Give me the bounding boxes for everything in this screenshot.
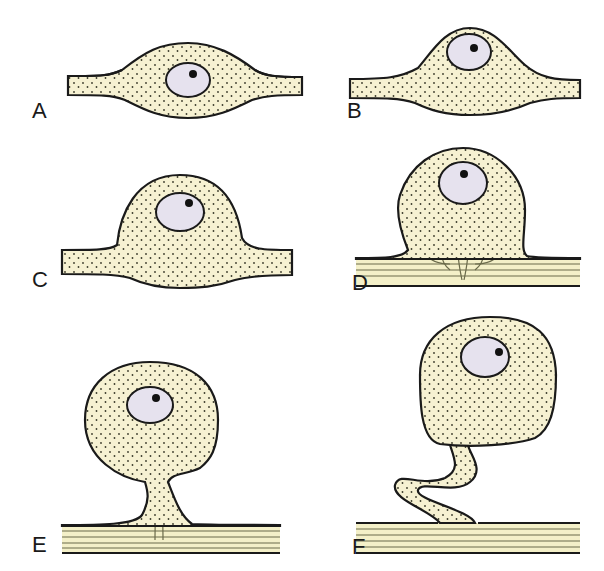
nucleus	[461, 337, 509, 377]
panel-d: D	[352, 148, 580, 295]
neuron-development-diagram: A B C	[0, 0, 604, 571]
panel-f: F	[352, 317, 580, 559]
nucleus	[156, 193, 204, 231]
nucleolus	[495, 348, 503, 356]
nucleus	[447, 34, 491, 70]
panel-label-b: B	[347, 98, 362, 123]
cell-body	[62, 362, 280, 526]
panel-a: A	[32, 43, 302, 123]
nucleolus	[185, 199, 193, 207]
nucleolus	[152, 394, 160, 402]
nucleolus	[189, 70, 197, 78]
nucleus	[127, 387, 173, 423]
panel-c: C	[32, 175, 292, 292]
panel-label-d: D	[352, 270, 368, 295]
nucleus	[166, 63, 210, 97]
panel-label-c: C	[32, 267, 48, 292]
panel-label-e: E	[32, 532, 47, 557]
nucleolus	[470, 44, 478, 52]
nucleolus	[460, 170, 468, 178]
nucleus	[439, 162, 487, 204]
panel-label-a: A	[32, 98, 47, 123]
panel-e: E	[32, 362, 280, 557]
panel-label-f: F	[352, 534, 365, 559]
panel-b: B	[347, 28, 580, 123]
s-shaped-process	[395, 445, 477, 523]
